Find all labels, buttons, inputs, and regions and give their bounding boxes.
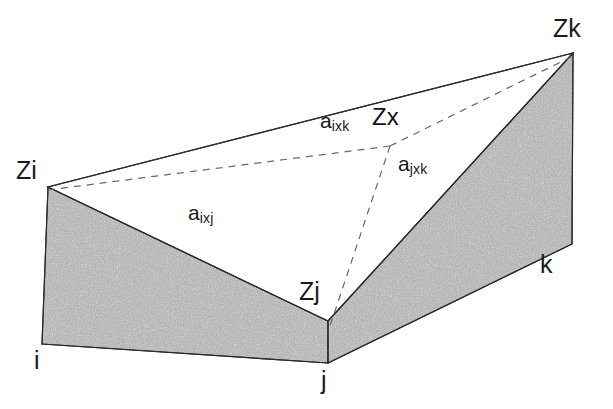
vertex-label-Zi: Zi (16, 158, 37, 183)
base-vertex-label-k: k (540, 252, 553, 277)
area-label-a-jxk: ajxk (398, 153, 427, 174)
diagram-canvas: Zi Zj Zk Zx i j k aixj aixk ajxk (0, 0, 613, 409)
area-label-a-ixk: aixk (320, 110, 349, 131)
base-vertex-label-j: j (321, 368, 327, 393)
area-base-jxk: a (398, 152, 410, 175)
area-subscript-ixj: ixj (200, 210, 214, 226)
area-label-a-ixj: aixj (188, 202, 214, 223)
area-base-ixk: a (320, 109, 332, 132)
area-subscript-jxk: jxk (410, 161, 428, 177)
interior-point-label-Zx: Zx (372, 105, 399, 129)
area-base-ixj: a (188, 201, 200, 224)
area-subscript-ixk: ixk (332, 118, 350, 134)
vertex-label-Zj: Zj (299, 279, 320, 304)
vertex-label-Zk: Zk (553, 16, 581, 41)
base-vertex-label-i: i (34, 348, 40, 373)
figure-svg (0, 0, 613, 409)
